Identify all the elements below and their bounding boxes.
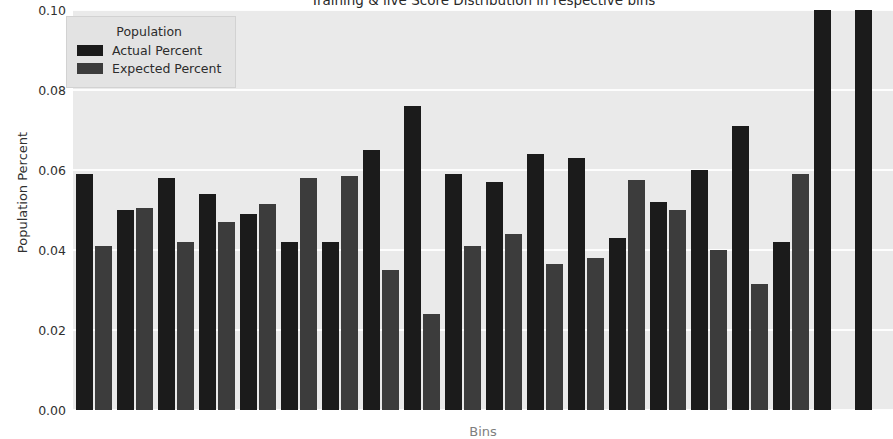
bar-group (688, 10, 729, 410)
bar-group (442, 10, 483, 410)
y-axis-tick-labels: 0.000.020.040.060.080.10 (16, 0, 66, 433)
bar-actual (363, 150, 380, 410)
bar-actual (527, 154, 544, 410)
bar-group (524, 10, 565, 410)
legend-label: Expected Percent (112, 61, 221, 76)
legend-title: Population (77, 24, 221, 39)
bar-expected (95, 246, 112, 410)
bar-actual (650, 202, 667, 410)
y-tick-label: 0.10 (20, 3, 66, 18)
legend-entry: Actual Percent (77, 43, 221, 58)
bar-expected (792, 174, 809, 410)
bar-group (278, 10, 319, 410)
bar-actual (814, 10, 831, 410)
y-tick-label: 0.04 (20, 243, 66, 258)
legend-swatch-icon (77, 63, 103, 74)
bar-actual (158, 178, 175, 410)
bar-expected (546, 264, 563, 410)
bar-actual (609, 238, 626, 410)
bar-expected (136, 208, 153, 410)
legend: Population Actual PercentExpected Percen… (66, 16, 236, 88)
chart-title: Training & live Score Distribution in re… (73, 0, 893, 7)
bar-expected (423, 314, 440, 410)
bar-actual (404, 106, 421, 410)
bar-group (647, 10, 688, 410)
bar-actual (76, 174, 93, 410)
bar-group (565, 10, 606, 410)
bar-expected (505, 234, 522, 410)
bar-expected (341, 176, 358, 410)
y-tick-label: 0.06 (20, 163, 66, 178)
bar-actual (281, 242, 298, 410)
legend-entry: Expected Percent (77, 61, 221, 76)
bar-expected (300, 178, 317, 410)
legend-swatch-icon (77, 45, 103, 56)
bar-expected (751, 284, 768, 410)
bar-expected (628, 180, 645, 410)
bar-group (811, 10, 852, 410)
bar-group (483, 10, 524, 410)
bar-group (852, 10, 893, 410)
bar-actual (691, 170, 708, 410)
bar-expected (710, 250, 727, 410)
bar-group (770, 10, 811, 410)
bar-actual (117, 210, 134, 410)
bar-actual (322, 242, 339, 410)
bar-actual (732, 126, 749, 410)
legend-label: Actual Percent (112, 43, 202, 58)
bar-group (319, 10, 360, 410)
bar-expected (259, 204, 276, 410)
bar-actual (486, 182, 503, 410)
bar-actual (240, 214, 257, 410)
bar-expected (587, 258, 604, 410)
bar-actual (445, 174, 462, 410)
bar-group (237, 10, 278, 410)
y-tick-label: 0.02 (20, 323, 66, 338)
y-tick-label: 0.00 (20, 403, 66, 418)
bar-expected (464, 246, 481, 410)
bar-expected (382, 270, 399, 410)
bar-actual (855, 10, 872, 410)
y-tick-label: 0.08 (20, 83, 66, 98)
bar-expected (669, 210, 686, 410)
bar-actual (199, 194, 216, 410)
bar-group (401, 10, 442, 410)
x-axis-label: Bins (73, 424, 893, 439)
bar-expected (218, 222, 235, 410)
bar-expected (177, 242, 194, 410)
legend-entries: Actual PercentExpected Percent (77, 43, 221, 76)
bar-actual (773, 242, 790, 410)
bar-actual (568, 158, 585, 410)
bar-group (360, 10, 401, 410)
bar-group (606, 10, 647, 410)
bar-group (729, 10, 770, 410)
